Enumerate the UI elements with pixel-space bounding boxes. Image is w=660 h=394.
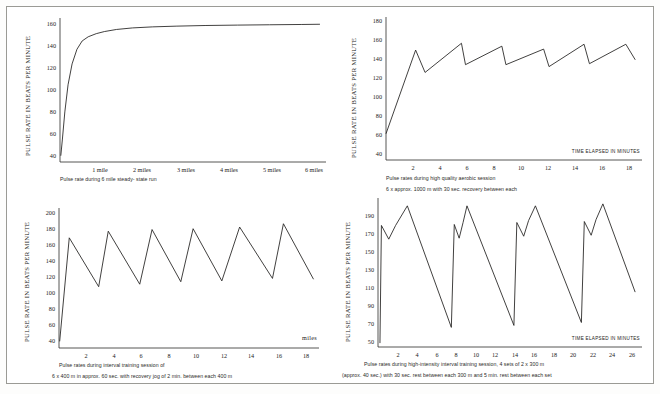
x-axis-note: TIME ELAPSED IN MINUTES (572, 336, 640, 341)
x-tick-label: 12 (545, 164, 551, 171)
y-axis-title-group: PULSE RATE IN BEATS PER MINUTE (24, 36, 31, 156)
x-tick-labels: 1 mile 2 miles 3 miles 4 miles 5 miles 6… (92, 166, 323, 173)
y-tick-label: 60 (376, 131, 382, 138)
y-tick-labels: 40 60 80 100 120 140 160 180 (373, 17, 382, 157)
x-tick-label: 14 (512, 351, 518, 358)
y-axis-title-group: PULSE RATE IN BEATS PER MINUTE (23, 222, 30, 342)
x-tick-label: 8 (492, 164, 495, 171)
y-tick-label: 130 (365, 266, 374, 273)
chart-caption-line2: (approx. 40 sec.) with 30 sec. rest betw… (342, 372, 660, 379)
y-tick-label: 80 (49, 305, 55, 312)
x-tick-label: 8 (167, 352, 170, 359)
x-tick-label: 10 (193, 352, 199, 359)
axes-lines (59, 208, 319, 348)
y-tick-label: 40 (376, 150, 382, 157)
y-tick-label: 50 (368, 338, 374, 345)
axes-lines (378, 198, 642, 347)
y-tick-label: 120 (373, 74, 382, 81)
y-axis-title: PULSE RATE IN BEATS PER MINUTE (350, 38, 357, 158)
x-tick-label: 2 (84, 352, 87, 359)
y-tick-label: 40 (50, 152, 56, 159)
x-axis-note: TIME ELAPSED IN MINUTES (572, 149, 640, 154)
y-tick-label: 140 (46, 257, 55, 264)
chart-caption-line2: 6 x approx. 1000 m with 30 sec. recovery… (386, 186, 660, 193)
data-series-line (386, 43, 635, 133)
x-tick-label: 8 (454, 351, 457, 358)
x-tick-label: 12 (221, 352, 227, 359)
chart-steady-state-run: PULSE RATE IN BEATS PER MINUTE 40 60 80 … (14, 8, 332, 196)
y-tick-label: 60 (49, 321, 55, 328)
x-tick-label: 2 miles (133, 166, 152, 173)
y-axis-title-group: PULSE RATE IN BEATS PER MINUTE (344, 222, 351, 342)
y-tick-label: 120 (46, 273, 55, 280)
x-tick-label: 16 (599, 164, 605, 171)
y-tick-label: 170 (365, 230, 374, 237)
x-tick-label: 16 (276, 352, 282, 359)
chart-panel-steady-state-run: PULSE RATE IN BEATS PER MINUTE 40 60 80 … (14, 8, 332, 196)
y-axis-title: PULSE RATE IN BEATS PER MINUTE (344, 222, 351, 342)
y-tick-label: 100 (47, 86, 56, 93)
y-axis-title: PULSE RATE IN BEATS PER MINUTE (23, 222, 30, 342)
y-tick-label: 180 (46, 225, 55, 232)
y-tick-label: 160 (373, 36, 382, 43)
x-tick-label: 6 miles (305, 166, 324, 173)
x-tick-label: 4 (438, 164, 441, 171)
charts-grid: PULSE RATE IN BEATS PER MINUTE 40 60 80 … (0, 0, 660, 394)
chart-panel-high-intensity-300m: PULSE RATE IN BEATS PER MINUTE 50 70 90 … (336, 196, 654, 386)
x-tick-label: 4 (415, 351, 418, 358)
y-tick-label: 140 (47, 42, 56, 49)
x-tick-label: 24 (609, 351, 615, 358)
y-tick-label: 70 (368, 320, 374, 327)
y-tick-labels: 40 60 80 100 120 140 160 (47, 20, 56, 159)
y-tick-label: 140 (373, 55, 382, 62)
x-tick-label: 14 (248, 352, 254, 359)
x-tick-label: 6 (435, 351, 438, 358)
x-tick-label: 10 (473, 351, 479, 358)
y-tick-label: 190 (365, 212, 374, 219)
x-tick-label: 6 (139, 352, 142, 359)
x-tick-labels: 2 4 6 8 10 12 14 16 18 (411, 164, 632, 171)
y-tick-label: 120 (47, 64, 56, 71)
data-series-line (380, 204, 635, 343)
y-tick-label: 180 (373, 17, 382, 24)
y-tick-label: 90 (368, 302, 374, 309)
y-tick-label: 160 (46, 241, 55, 248)
x-tick-label: 1 mile (92, 166, 108, 173)
y-tick-label: 80 (50, 108, 56, 115)
y-axis-title-group: PULSE RATE IN BEATS PER MINUTE (350, 38, 357, 158)
y-tick-label: 200 (46, 209, 55, 216)
x-tick-label: 5 miles (263, 166, 282, 173)
y-tick-label: 100 (46, 289, 55, 296)
x-tick-labels: 2 4 6 8 10 12 14 16 18 20 22 24 26 (396, 351, 635, 358)
chart-caption-line1: Pulse rate during 6 mile steady- state r… (60, 176, 378, 183)
axes-lines (60, 18, 326, 162)
figure-page: PULSE RATE IN BEATS PER MINUTE 40 60 80 … (0, 0, 660, 394)
x-tick-label: 20 (570, 351, 576, 358)
chart-caption-line1: Pulse rates during high quality aerobic … (386, 175, 660, 182)
y-tick-label: 110 (365, 284, 374, 291)
chart-interval-400m: PULSE RATE IN BEATS PER MINUTE 40 60 80 … (14, 196, 332, 386)
x-tick-label: 4 miles (220, 166, 239, 173)
y-axis-title: PULSE RATE IN BEATS PER MINUTE (24, 36, 31, 156)
x-tick-label: 6 (465, 164, 468, 171)
x-tick-label: 12 (492, 351, 498, 358)
chart-high-intensity-300m: PULSE RATE IN BEATS PER MINUTE 50 70 90 … (336, 196, 654, 386)
x-tick-label: 18 (303, 352, 309, 359)
x-tick-label: 26 (629, 351, 635, 358)
y-tick-labels: 50 70 90 110 130 150 170 190 (365, 212, 374, 345)
x-tick-labels: 2 4 6 8 10 12 14 16 18 (84, 352, 309, 359)
x-tick-label: 2 (411, 164, 414, 171)
x-tick-label: 18 (551, 351, 557, 358)
y-tick-label: 160 (47, 20, 56, 27)
x-tick-label: 16 (531, 351, 537, 358)
chart-panel-high-quality-aerobic: PULSE RATE IN BEATS PER MINUTE 40 60 80 … (336, 8, 654, 196)
y-tick-label: 40 (49, 337, 55, 344)
y-tick-labels: 40 60 80 100 120 140 160 180 200 (46, 209, 55, 344)
data-series-line (60, 224, 314, 342)
x-tick-label: 22 (590, 351, 596, 358)
x-axis-note: miles (302, 334, 317, 341)
x-tick-label: 2 (396, 351, 399, 358)
y-tick-label: 60 (50, 130, 56, 137)
x-tick-label: 10 (518, 164, 524, 171)
chart-caption-line1: Pulse rates during high-intensity interv… (364, 361, 660, 368)
